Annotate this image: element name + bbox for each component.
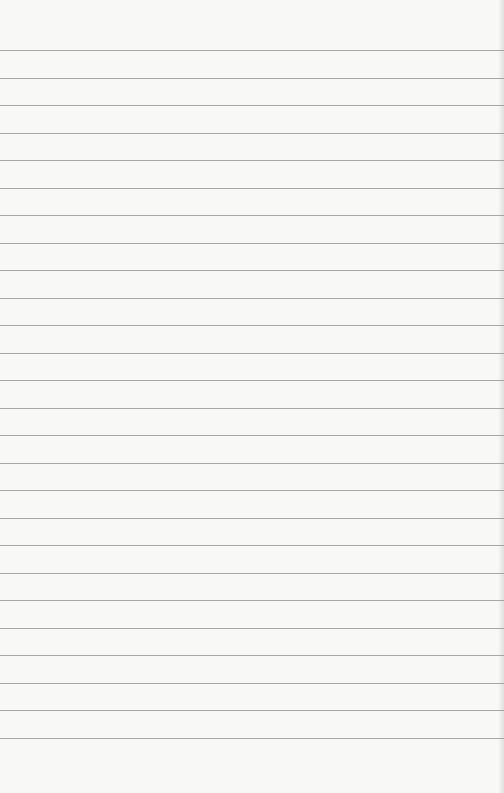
ruled-line [0, 655, 504, 656]
ruled-line [0, 270, 504, 271]
ruled-line [0, 408, 504, 409]
ruled-line [0, 243, 504, 244]
lined-paper-sheet [0, 0, 504, 793]
ruled-line [0, 353, 504, 354]
ruled-line [0, 710, 504, 711]
ruled-line [0, 628, 504, 629]
ruled-line [0, 380, 504, 381]
ruled-line [0, 325, 504, 326]
ruled-line [0, 683, 504, 684]
ruled-line [0, 573, 504, 574]
ruled-line [0, 133, 504, 134]
ruled-line [0, 545, 504, 546]
ruled-line [0, 160, 504, 161]
ruled-line [0, 435, 504, 436]
ruled-line [0, 738, 504, 739]
paper-edge-shadow [498, 0, 504, 793]
ruled-line [0, 518, 504, 519]
ruled-line [0, 105, 504, 106]
ruled-line [0, 490, 504, 491]
ruled-line [0, 215, 504, 216]
ruled-line [0, 78, 504, 79]
ruled-line [0, 188, 504, 189]
ruled-line [0, 50, 504, 51]
ruled-line [0, 600, 504, 601]
ruled-line [0, 298, 504, 299]
ruled-line [0, 463, 504, 464]
